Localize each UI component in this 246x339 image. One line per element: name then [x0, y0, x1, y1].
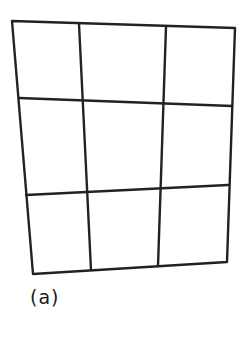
- grid-outer-border: [12, 21, 235, 274]
- grid-vertical-line-1: [79, 24, 91, 270]
- grid-vertical-line-2: [158, 27, 166, 266]
- grid-horizontal-line-2: [26, 185, 228, 195]
- grid-horizontal-line-1: [19, 98, 232, 106]
- figure-label: (a): [30, 286, 59, 308]
